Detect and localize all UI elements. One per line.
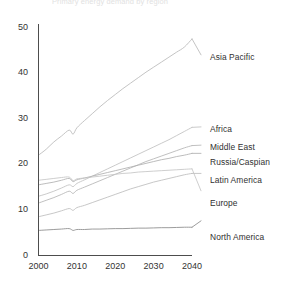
series-label-africa: Africa [210, 124, 232, 134]
x-tick-2030: 2030 [137, 261, 171, 271]
y-tick-10: 10 [2, 204, 28, 214]
series-label-latin-america: Latin America [210, 175, 262, 185]
series-label-russia-caspian: Russia/Caspian [210, 157, 270, 167]
y-tick-0: 0 [2, 250, 28, 260]
y-tick-30: 30 [2, 113, 28, 123]
series-label-middle-east: Middle East [210, 142, 255, 152]
y-tick-40: 40 [2, 67, 28, 77]
series-label-europe: Europe [210, 198, 238, 208]
chart-figure: Primary energy demand by region 01020304… [0, 0, 298, 286]
series-line-asia-pacific [39, 39, 193, 155]
series-leader-europe [192, 169, 201, 191]
x-tick-2040: 2040 [175, 261, 209, 271]
series-line-russia-caspian [39, 153, 193, 184]
x-tick-2000: 2000 [22, 261, 56, 271]
series-label-north-america: North America [210, 232, 264, 242]
x-tick-2010: 2010 [60, 261, 94, 271]
series-leader-asia-pacific [192, 39, 201, 55]
y-tick-20: 20 [2, 158, 28, 168]
series-leader-north-america [192, 221, 201, 227]
x-tick-2020: 2020 [98, 261, 132, 271]
series-line-north-america [39, 227, 193, 230]
y-tick-50: 50 [2, 22, 28, 32]
series-layer [39, 39, 202, 231]
series-line-africa [39, 127, 193, 196]
series-label-asia-pacific: Asia Pacific [210, 52, 255, 62]
